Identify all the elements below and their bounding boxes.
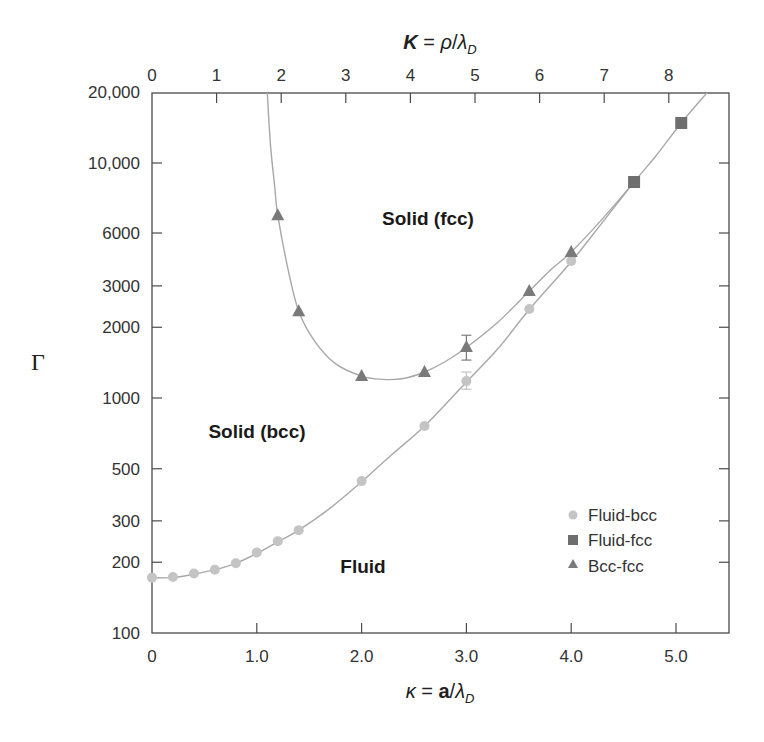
fluid-fcc-marker: [675, 117, 687, 129]
fluid-bcc-marker: [461, 376, 471, 386]
bottom-axis-title: κ = a/λD: [406, 680, 475, 706]
bottom-axis-eq: =: [416, 680, 439, 702]
top-axis-title: K = ρ/λD: [403, 31, 477, 57]
x-tick-label: 0: [147, 647, 156, 666]
fluid-bcc-marker: [252, 548, 262, 558]
x2-tick-label: 2: [276, 66, 285, 85]
x2-tick-label: 5: [470, 66, 479, 85]
y-tick-label: 6000: [102, 224, 140, 243]
fluid-bcc-marker: [210, 565, 220, 575]
x-tick-label: 5.0: [664, 647, 688, 666]
fluid-bcc-marker: [524, 304, 534, 314]
y-tick-label: 3000: [102, 277, 140, 296]
bcc-fcc-marker: [460, 340, 473, 352]
y-tick-label: 100: [112, 624, 140, 643]
y-tick-label: 200: [112, 553, 140, 572]
y-tick-label: 1000: [102, 389, 140, 408]
bcc-fcc-marker: [418, 365, 431, 377]
y-tick-label: 300: [112, 512, 140, 531]
x2-tick-label: 6: [535, 66, 544, 85]
fluid-bcc-marker: [419, 421, 429, 431]
y-axis-title: Γ: [31, 349, 45, 375]
top-axis-lambda: λ: [457, 31, 468, 53]
bcc-fcc-marker: [292, 304, 305, 316]
fluid-fcc-marker: [628, 176, 640, 188]
x2-tick-label: 0: [147, 66, 156, 85]
bcc-fcc-boundary-curve: [267, 92, 634, 379]
legend-square-icon: [568, 535, 578, 545]
top-axis-sub: D: [467, 42, 476, 57]
x-tick-label: 2.0: [350, 647, 374, 666]
legend-label-fluid-fcc: Fluid-fcc: [588, 531, 653, 550]
legend-label-bcc-fcc: Bcc-fcc: [588, 557, 644, 576]
y-tick-label: 10,000: [88, 154, 140, 173]
x-tick-label: 1.0: [245, 647, 269, 666]
bcc-fcc-marker: [271, 208, 284, 220]
phase-diagram-chart: K = ρ/λD 01.02.03.04.05.001234567820,000…: [0, 0, 764, 742]
fluid-bcc-marker: [294, 525, 304, 535]
legend-triangle-icon: [568, 559, 578, 568]
top-axis-eq: =: [418, 31, 441, 53]
x2-tick-label: 4: [406, 66, 415, 85]
bottom-axis-sub: D: [465, 691, 474, 706]
legend-label-fluid-bcc: Fluid-bcc: [588, 506, 657, 525]
x2-tick-label: 1: [212, 66, 221, 85]
region-label-fluid: Fluid: [340, 556, 385, 577]
fluid-bcc-marker: [168, 572, 178, 582]
fluid-bcc-marker: [147, 573, 157, 583]
fluid-bcc-marker: [231, 558, 241, 568]
fluid-bcc-marker: [357, 476, 367, 486]
x-tick-label: 3.0: [455, 647, 479, 666]
legend: Fluid-bcc Fluid-fcc Bcc-fcc: [568, 506, 657, 576]
top-axis-num: ρ: [439, 31, 451, 53]
legend-circle-icon: [569, 511, 578, 520]
plot-frame: [152, 93, 729, 633]
x2-tick-label: 7: [599, 66, 608, 85]
x2-tick-label: 8: [664, 66, 673, 85]
x2-tick-label: 3: [341, 66, 350, 85]
y-tick-label: 500: [112, 460, 140, 479]
y-tick-label: 20,000: [88, 83, 140, 102]
axis-tick-labels: 01.02.03.04.05.001234567820,00010,000600…: [88, 66, 688, 666]
fluid-bcc-marker: [566, 256, 576, 266]
fluid-bcc-marker: [273, 536, 283, 546]
bottom-axis-lambda: λ: [454, 680, 465, 702]
y-tick-label: 2000: [102, 318, 140, 337]
fluid-bcc-marker: [189, 569, 199, 579]
region-label-solid-bcc: Solid (bcc): [208, 421, 305, 442]
x-tick-label: 4.0: [559, 647, 583, 666]
axis-ticks: [152, 93, 729, 633]
region-label-solid-fcc: Solid (fcc): [382, 208, 474, 229]
